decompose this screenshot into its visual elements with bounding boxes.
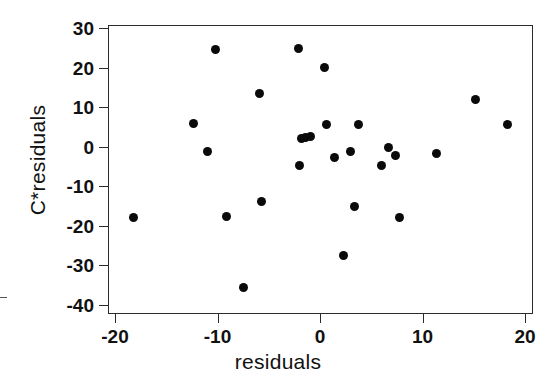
y-tick-mark xyxy=(99,107,108,108)
y-tick-mark xyxy=(99,226,108,227)
x-tick-mark xyxy=(525,314,526,323)
x-tick-mark xyxy=(423,314,424,323)
x-tick-mark xyxy=(320,314,321,323)
x-axis-title: residuals xyxy=(0,350,556,374)
y-tick-mark xyxy=(99,147,108,148)
y-tick-mark xyxy=(99,265,108,266)
y-tick-mark xyxy=(99,68,108,69)
x-tick-label: 10 xyxy=(412,327,433,346)
y-tick-mark xyxy=(99,28,108,29)
x-tick-mark xyxy=(115,314,116,323)
scatter-plot-figure: 3020100-10-20-30-40 -20-1001020 C*residu… xyxy=(0,0,556,388)
y-tick-label: -40 xyxy=(0,296,94,315)
x-tick-label: 20 xyxy=(514,327,535,346)
plot-frame xyxy=(108,25,533,314)
x-tick-mark xyxy=(218,314,219,323)
x-tick-label: -20 xyxy=(101,327,128,346)
x-tick-label: 0 xyxy=(315,327,326,346)
y-tick-mark xyxy=(99,186,108,187)
x-tick-label: -10 xyxy=(204,327,231,346)
y-axis-title: C*residuals xyxy=(26,30,50,290)
y-tick-mark xyxy=(99,305,108,306)
